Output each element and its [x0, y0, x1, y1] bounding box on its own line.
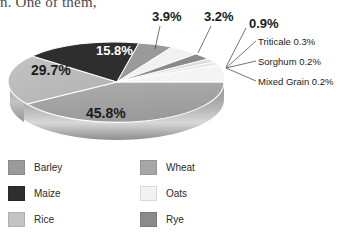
- callout-triticale: Triticale 0.3%: [258, 36, 315, 47]
- legend-label-rye: Rye: [166, 214, 184, 225]
- legend-swatch-maize: [8, 186, 25, 201]
- legend-swatch-rye: [140, 212, 157, 227]
- legend-item-rye: Rye: [140, 212, 184, 227]
- legend-item-barley: Barley: [8, 160, 62, 175]
- legend-swatch-rice: [8, 212, 25, 227]
- pie-chart-stage: 15.8% 29.7% 45.8% 3.9% 3.2% 0.9% Tritica…: [0, 0, 349, 160]
- chart-figure: n. One of them,: [0, 0, 349, 243]
- legend-label-rice: Rice: [34, 214, 54, 225]
- callout-sorghum: Sorghum 0.2%: [258, 56, 321, 67]
- chart-legend: Barley Wheat Maize Oats Rice Rye: [0, 158, 349, 243]
- legend-swatch-barley: [8, 160, 25, 175]
- legend-item-wheat: Wheat: [140, 160, 195, 175]
- pie-label-wheat: 3.9%: [152, 9, 182, 24]
- legend-label-wheat: Wheat: [166, 162, 195, 173]
- pie-label-oats: 3.2%: [204, 9, 234, 24]
- pie-label-maize: 15.8%: [96, 43, 133, 58]
- legend-swatch-oats: [140, 186, 157, 201]
- legend-label-maize: Maize: [34, 188, 61, 199]
- legend-swatch-wheat: [140, 160, 157, 175]
- legend-item-oats: Oats: [140, 186, 187, 201]
- legend-label-oats: Oats: [166, 188, 187, 199]
- pie-label-barley: 29.7%: [31, 62, 71, 78]
- legend-item-maize: Maize: [8, 186, 61, 201]
- pie-label-rice: 45.8%: [86, 105, 126, 121]
- legend-label-barley: Barley: [34, 162, 62, 173]
- leader-line-mixed-grain: [226, 68, 256, 81]
- leader-line-sorghum: [226, 61, 256, 68]
- leader-line-rye: [226, 28, 246, 67]
- legend-item-rice: Rice: [8, 212, 54, 227]
- leader-line-oats: [198, 26, 211, 53]
- pie-label-rye: 0.9%: [249, 16, 279, 31]
- callout-mixed-grain: Mixed Grain 0.2%: [258, 76, 334, 87]
- leader-line-triticale: [226, 41, 256, 68]
